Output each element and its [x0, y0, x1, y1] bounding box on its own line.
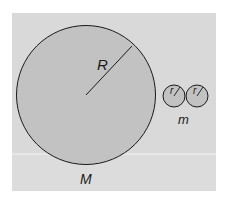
mass-label-M: M: [80, 171, 92, 187]
small-sphere-2: r: [186, 85, 208, 107]
radius-label-R: R: [97, 56, 108, 73]
lower-panel: [12, 154, 216, 191]
gravity-spheres-diagram: R M r r m: [0, 0, 226, 201]
small-sphere-1: r: [163, 85, 185, 107]
mass-label-m: m: [178, 112, 189, 127]
